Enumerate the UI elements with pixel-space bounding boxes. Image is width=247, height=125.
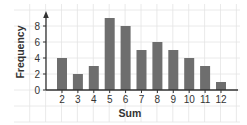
x-axis-title: Sum: [119, 107, 142, 119]
bar-sum-2: [57, 58, 67, 90]
bar-sum-10: [184, 58, 194, 90]
y-tick-label: 8: [34, 21, 40, 32]
x-tick-label: 12: [215, 94, 227, 105]
x-tick-label: 5: [107, 94, 113, 105]
bar-sum-11: [200, 66, 210, 90]
x-tick-label: 9: [171, 94, 177, 105]
bar-sum-4: [89, 66, 99, 90]
x-tick-labels: 23456789101112: [59, 90, 227, 105]
x-tick-label: 6: [123, 94, 129, 105]
x-tick-label: 8: [155, 94, 161, 105]
bar-sum-3: [73, 74, 83, 90]
bars: [57, 18, 226, 90]
x-tick-label: 7: [139, 94, 145, 105]
x-tick-label: 11: [200, 94, 211, 105]
bar-sum-8: [152, 42, 162, 90]
bar-sum-5: [105, 18, 115, 90]
x-tick-label: 10: [184, 94, 196, 105]
frequency-bar-chart: 02468 23456789101112 Sum Frequency: [0, 0, 247, 125]
y-tick-label: 4: [34, 53, 40, 64]
y-tick-label: 2: [34, 69, 40, 80]
x-tick-label: 3: [75, 94, 81, 105]
y-tick-label: 0: [34, 85, 40, 96]
bar-sum-12: [216, 82, 226, 90]
y-axis-title: Frequency: [14, 25, 26, 78]
x-tick-label: 2: [59, 94, 65, 105]
bar-sum-6: [121, 26, 131, 90]
x-tick-label: 4: [91, 94, 97, 105]
bar-sum-9: [168, 50, 178, 90]
y-tick-label: 6: [34, 37, 40, 48]
bar-sum-7: [137, 50, 147, 90]
y-axis-arrow-icon: [43, 11, 49, 18]
